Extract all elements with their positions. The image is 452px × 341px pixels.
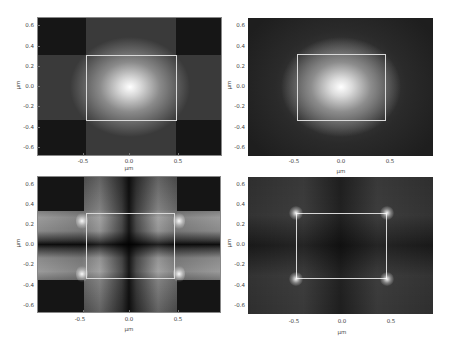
- x-axis-label: μm: [338, 329, 347, 335]
- y-tick-label: -0.2: [225, 103, 245, 109]
- x-tick-label: 0.0: [329, 158, 353, 164]
- y-tick-label: 0.2: [14, 63, 34, 69]
- corner-hotspot: [380, 272, 394, 286]
- region-rectangle: [296, 213, 387, 279]
- y-tick-label: -0.6: [225, 302, 245, 308]
- y-tick-label: 0.6: [14, 181, 34, 187]
- region-rectangle: [86, 213, 175, 279]
- corner-hotspot: [289, 206, 303, 220]
- x-tick-label: -0.5: [71, 158, 95, 164]
- x-tick-label: 0.5: [379, 318, 403, 324]
- x-tick-label: -0.5: [282, 158, 306, 164]
- corner-hotspot: [380, 206, 394, 220]
- y-tick-label: 0.2: [225, 63, 245, 69]
- x-tick-label: -0.5: [282, 318, 306, 324]
- y-tick-label: -0.6: [14, 144, 34, 150]
- x-tick-label: 0.5: [166, 158, 190, 164]
- x-tick-label: 0.0: [117, 158, 141, 164]
- x-tick-label: 0.5: [166, 316, 190, 322]
- heatmap-top-left: [37, 17, 222, 156]
- x-axis-label: μm: [125, 165, 134, 171]
- y-tick-label: 0.4: [225, 43, 245, 49]
- y-tick-label: 0.6: [225, 22, 245, 28]
- y-tick-label: -0.4: [14, 282, 34, 288]
- y-tick-label: 0.4: [14, 43, 34, 49]
- y-axis-label: μm: [15, 81, 21, 90]
- corner-hotspot: [289, 272, 303, 286]
- y-tick-label: -0.4: [14, 124, 34, 130]
- y-tick-label: -0.6: [14, 302, 34, 308]
- region-rectangle: [297, 54, 386, 121]
- y-tick-label: 0.4: [225, 201, 245, 207]
- y-axis-label: μm: [226, 81, 232, 90]
- heatmap-top-right: [248, 18, 433, 156]
- y-tick-label: 0.2: [14, 221, 34, 227]
- y-axis-label: μm: [226, 239, 232, 248]
- y-axis-label: μm: [15, 239, 21, 248]
- x-tick-label: 0.0: [117, 316, 141, 322]
- x-tick-label: 0.5: [378, 158, 402, 164]
- y-tick-label: -0.2: [14, 261, 34, 267]
- y-tick-label: 0.4: [14, 201, 34, 207]
- y-tick-label: -0.4: [225, 282, 245, 288]
- y-tick-label: 0.6: [225, 181, 245, 187]
- y-tick-label: 0.2: [225, 221, 245, 227]
- heatmap-bottom-left: [37, 176, 221, 313]
- heatmap-bottom-right: [248, 177, 433, 314]
- x-tick-label: 0.0: [330, 318, 354, 324]
- y-tick-label: -0.4: [225, 124, 245, 130]
- y-tick-label: -0.2: [14, 103, 34, 109]
- x-axis-label: μm: [125, 326, 134, 332]
- region-rectangle: [86, 55, 177, 121]
- x-tick-label: -0.5: [68, 316, 92, 322]
- y-tick-label: 0.6: [14, 22, 34, 28]
- y-tick-label: -0.6: [225, 144, 245, 150]
- y-tick-label: -0.2: [225, 261, 245, 267]
- x-axis-label: μm: [337, 168, 346, 174]
